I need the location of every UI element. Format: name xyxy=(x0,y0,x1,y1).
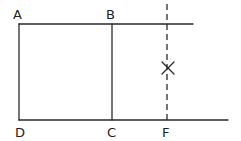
label-f: F xyxy=(162,125,169,140)
geometry-diagram: A B D C F xyxy=(0,0,241,141)
label-b: B xyxy=(106,7,115,22)
x-marker xyxy=(162,62,174,74)
label-a: A xyxy=(13,7,22,22)
label-c: C xyxy=(107,125,116,140)
label-d: D xyxy=(15,125,25,140)
